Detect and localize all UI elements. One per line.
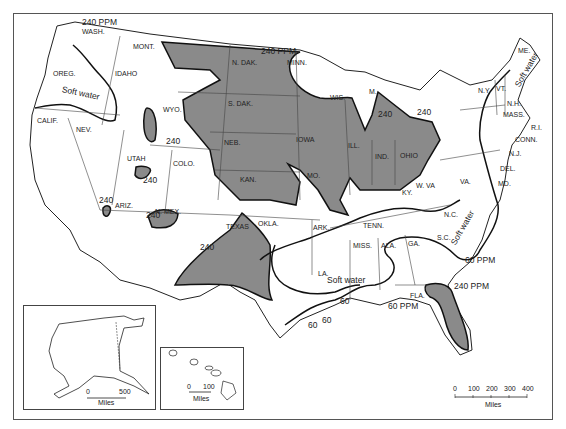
- arizona-spot: [103, 206, 111, 216]
- florida-region: [425, 283, 468, 350]
- state-label: N.H.: [507, 100, 521, 107]
- alaska-scale-0: 0: [86, 388, 90, 395]
- hardness-label: 240 PPM: [261, 47, 296, 56]
- state-label: S. DAK.: [228, 100, 253, 107]
- hardness-label: 60 PPM: [388, 302, 418, 311]
- hawaii-scale-0: 0: [187, 383, 191, 390]
- state-label: IND.: [375, 153, 389, 160]
- scale-unit: Miles: [485, 401, 501, 408]
- hardness-label: 240: [166, 137, 180, 146]
- state-label: VA.: [460, 178, 471, 185]
- state-label: ARK.: [313, 224, 329, 231]
- state-label: GA.: [408, 240, 420, 247]
- state-label: MO.: [307, 172, 320, 179]
- state-label: NEV.: [76, 126, 92, 133]
- hardness-label: 60: [322, 316, 331, 325]
- alaska-scale-500: 500: [119, 388, 131, 395]
- soft-water-label: Soft water: [327, 276, 365, 285]
- hawaii-scale-100: 100: [203, 383, 215, 390]
- state-label: M.: [369, 88, 377, 95]
- state-label: TEXAS: [226, 223, 249, 230]
- hardness-label: 240: [99, 196, 113, 205]
- state-label: N.Y.: [478, 87, 491, 94]
- state-label: KY.: [402, 189, 412, 196]
- scale-100: 100: [468, 385, 480, 392]
- state-label: OHIO: [400, 152, 418, 159]
- state-label: MISS.: [353, 242, 372, 249]
- state-label: MASS.: [503, 111, 525, 118]
- state-label: FLA.: [410, 292, 425, 299]
- state-label: IDAHO: [115, 70, 137, 77]
- state-label: WYO.: [163, 106, 182, 113]
- hawaii-scale-unit: Miles: [193, 395, 209, 402]
- main-scale-bar: 0 100 200 300 400 Miles: [453, 385, 548, 415]
- hardness-label: 240 PPM: [82, 18, 117, 27]
- state-label: WASH.: [82, 28, 105, 35]
- hardness-label: 240: [378, 110, 392, 119]
- hardness-label: 240: [143, 176, 157, 185]
- state-label: NEB.: [224, 139, 240, 146]
- state-label: N. DAK.: [232, 59, 257, 66]
- scale-200: 200: [486, 385, 498, 392]
- hardness-label: 240: [146, 211, 160, 220]
- hardness-label: 60: [340, 297, 349, 306]
- scale-0: 0: [453, 385, 457, 392]
- state-label: MD.: [498, 180, 511, 187]
- state-label: ILL.: [348, 142, 360, 149]
- state-label: OKLA.: [258, 220, 279, 227]
- hawaii-inset: 0 100 Miles: [160, 347, 244, 410]
- state-label: TENN.: [363, 222, 384, 229]
- state-label: MINN.: [287, 59, 307, 66]
- hardness-label: 60: [308, 321, 317, 330]
- state-label: ALA.: [381, 242, 396, 249]
- state-label: ARIZ.: [115, 202, 133, 209]
- state-label: VT.: [496, 85, 506, 92]
- state-label: IOWA: [296, 136, 314, 143]
- state-label: KAN.: [240, 176, 256, 183]
- state-label: WIS.: [330, 94, 345, 101]
- state-label: DEL.: [500, 165, 516, 172]
- hardness-label: 240 PPM: [454, 282, 489, 291]
- state-label: MONT.: [133, 43, 155, 50]
- state-label: UTAH: [127, 155, 146, 162]
- state-label: ME.: [518, 47, 530, 54]
- state-label: COLO.: [173, 160, 195, 167]
- state-label: CALIF.: [37, 117, 58, 124]
- state-label: R.I.: [531, 124, 542, 131]
- state-label: N.J.: [509, 150, 521, 157]
- hardness-label: 60 PPM: [465, 256, 495, 265]
- hardness-label: 240: [417, 108, 431, 117]
- alaska-scale-unit: Miles: [98, 399, 114, 406]
- hardness-label: 240: [200, 243, 214, 252]
- state-label: CONN.: [515, 136, 538, 143]
- scale-400: 400: [522, 385, 534, 392]
- state-label: N.C.: [444, 211, 458, 218]
- state-label: OREG.: [53, 70, 76, 77]
- scale-300: 300: [504, 385, 516, 392]
- state-label: W. VA: [416, 182, 435, 189]
- alaska-inset: 0 500 Miles: [23, 305, 156, 410]
